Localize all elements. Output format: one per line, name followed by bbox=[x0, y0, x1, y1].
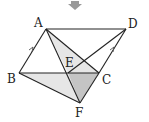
segment-dc bbox=[99, 29, 126, 73]
arrow-marker-icon bbox=[68, 1, 82, 10]
label-a: A bbox=[34, 17, 43, 29]
label-d: D bbox=[128, 18, 138, 30]
label-c: C bbox=[102, 74, 111, 86]
geometry-diagram: A D B C E F bbox=[0, 0, 149, 122]
label-f: F bbox=[75, 107, 83, 119]
diagram-canvas bbox=[0, 0, 149, 122]
parallel-mark-ab-icon bbox=[29, 47, 33, 52]
label-e: E bbox=[65, 57, 74, 69]
label-b: B bbox=[7, 73, 16, 85]
segment-ed bbox=[68, 29, 126, 73]
